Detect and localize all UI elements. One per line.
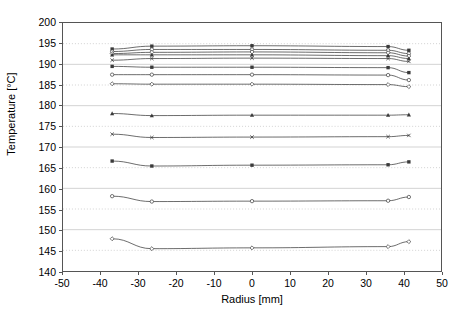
data-point: [150, 164, 153, 167]
x-tick-mark: [366, 272, 367, 275]
y-tick-label: 190: [18, 59, 56, 69]
x-tick-label: -40: [80, 278, 120, 288]
data-point: [250, 164, 253, 167]
data-point: [250, 44, 253, 47]
x-tick-mark: [442, 272, 443, 275]
series-curve-4: [110, 53, 411, 61]
data-point: [250, 66, 253, 69]
y-tick-label: 165: [18, 163, 56, 173]
series-curve-3: [110, 50, 411, 58]
x-tick-mark: [62, 272, 63, 275]
series-curve-13: [110, 237, 411, 251]
y-tick-label: 195: [18, 38, 56, 48]
x-tick-label: -50: [42, 278, 82, 288]
data-point: [250, 82, 254, 86]
data-point: [110, 237, 114, 241]
series-curve-12: [110, 195, 410, 204]
x-tick-mark: [138, 272, 139, 275]
y-tick-label: 150: [18, 225, 56, 235]
data-series-layer: [63, 23, 441, 271]
data-point: [386, 73, 389, 76]
data-point: [407, 78, 410, 81]
y-tick-label: 170: [18, 142, 56, 152]
data-point: [250, 199, 253, 202]
x-tick-label: 40: [384, 278, 424, 288]
data-point: [386, 199, 389, 202]
y-tick-label: 140: [18, 267, 56, 277]
x-tick-label: -10: [194, 278, 234, 288]
y-tick-label: 175: [18, 121, 56, 131]
x-tick-mark: [328, 272, 329, 275]
data-point: [110, 65, 113, 68]
x-tick-label: -30: [118, 278, 158, 288]
series-curve-9: [110, 111, 411, 117]
data-point: [150, 200, 153, 203]
series-curve-2: [110, 48, 410, 56]
data-point: [386, 45, 389, 48]
series-curve-1: [110, 44, 410, 52]
y-tick-label: 155: [18, 205, 56, 215]
y-tick-label: 160: [18, 184, 56, 194]
data-point: [150, 66, 153, 69]
x-tick-mark: [176, 272, 177, 275]
x-tick-label: 50: [422, 278, 460, 288]
data-point: [407, 240, 411, 244]
x-tick-mark: [252, 272, 253, 275]
plot-area: [62, 22, 442, 272]
x-tick-mark: [100, 272, 101, 275]
data-point: [407, 71, 410, 74]
data-point: [110, 73, 113, 76]
x-tick-mark: [214, 272, 215, 275]
y-tick-label: 200: [18, 17, 56, 27]
series-curve-5: [110, 56, 410, 63]
x-tick-label: 30: [346, 278, 386, 288]
data-point: [407, 85, 411, 89]
y-axis-title: Temperature [°C]: [5, 49, 17, 179]
data-point: [407, 49, 410, 52]
x-axis-title: Radius [mm]: [62, 293, 442, 305]
data-point: [250, 246, 254, 250]
series-curve-7: [110, 73, 410, 82]
series-curve-11: [110, 159, 410, 167]
y-tick-label: 185: [18, 80, 56, 90]
x-tick-label: 10: [270, 278, 310, 288]
x-tick-mark: [404, 272, 405, 275]
y-tick-label: 180: [18, 100, 56, 110]
data-point: [386, 163, 389, 166]
series-curve-8: [110, 82, 411, 89]
data-point: [407, 195, 410, 198]
data-point: [110, 195, 113, 198]
data-point: [250, 73, 253, 76]
data-point: [110, 159, 113, 162]
x-tick-label: -20: [156, 278, 196, 288]
x-tick-label: 20: [308, 278, 348, 288]
data-point: [150, 247, 154, 251]
x-tick-mark: [290, 272, 291, 275]
data-point: [150, 73, 153, 76]
y-tick-label: 145: [18, 246, 56, 256]
x-tick-label: 0: [232, 278, 272, 288]
data-point: [150, 82, 154, 86]
series-curve-6: [110, 65, 410, 75]
data-point: [110, 82, 114, 86]
data-point: [386, 83, 390, 87]
data-point: [150, 44, 153, 47]
data-point: [386, 245, 390, 249]
data-point: [407, 160, 410, 163]
series-curve-10: [110, 133, 410, 140]
data-point: [386, 66, 389, 69]
temperature-vs-radius-chart: Temperature [°C] 14014515015516016517017…: [0, 0, 460, 313]
